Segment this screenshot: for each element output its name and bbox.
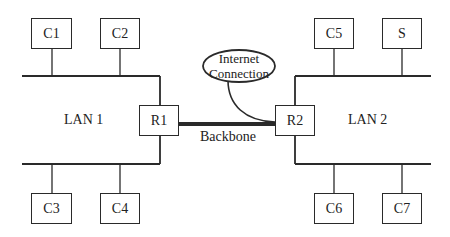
internet-line2: Connection [209, 66, 269, 81]
node-c7: C7 [382, 193, 422, 224]
router-r2-label: R2 [287, 113, 303, 129]
backbone-label: Backbone [200, 129, 256, 145]
internet-line1: Internet [219, 51, 259, 66]
router-r1-label: R1 [151, 113, 167, 129]
node-c6-label: C6 [326, 201, 342, 217]
node-c7-label: C7 [394, 201, 410, 217]
router-r2: R2 [275, 105, 315, 136]
node-c5-label: C5 [326, 26, 342, 42]
node-c1-label: C1 [43, 26, 59, 42]
node-c2: C2 [100, 18, 140, 49]
lan1-label: LAN 1 [64, 112, 103, 128]
lan2-label: LAN 2 [348, 112, 387, 128]
node-c2-label: C2 [112, 26, 128, 42]
node-c5: C5 [314, 18, 354, 49]
node-c3: C3 [31, 193, 72, 224]
internet-link [228, 80, 275, 122]
node-c4: C4 [100, 193, 140, 224]
router-r1: R1 [139, 105, 179, 136]
node-s: S [382, 18, 422, 49]
node-c4-label: C4 [112, 201, 128, 217]
node-c3-label: C3 [43, 201, 59, 217]
internet-connection-label: Internet Connection [203, 50, 275, 82]
node-c1: C1 [31, 18, 72, 49]
node-c6: C6 [314, 193, 354, 224]
node-s-label: S [398, 26, 406, 42]
